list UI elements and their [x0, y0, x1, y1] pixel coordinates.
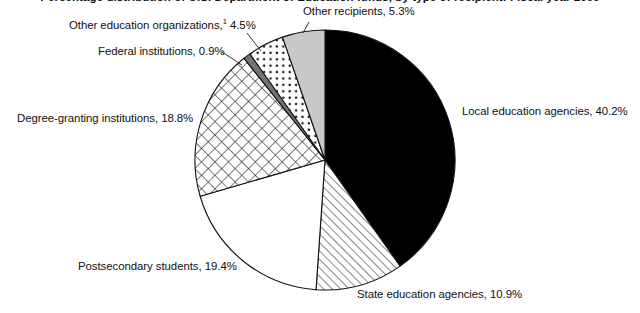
slice-label-degree-granting-institutions: Degree-granting institutions, 18.8% [17, 112, 193, 125]
slice-label-state-education-agencies: State education agencies, 10.9% [357, 288, 522, 301]
slice-label-local-education-agencies: Local education agencies, 40.2% [462, 105, 628, 118]
leader-line-federal-institutions [222, 52, 242, 65]
slice-label-federal-institutions: Federal institutions, 0.9% [98, 45, 225, 58]
leader-line-other-education-organizations [247, 33, 261, 51]
slice-label-other-education-organizations: Other education organizations,1 4.5% [69, 19, 256, 32]
pie-slices-group [195, 30, 455, 290]
slice-label-postsecondary-students: Postsecondary students, 19.4% [78, 260, 237, 273]
pie-chart-figure: Percentage distribution of U.S. Departme… [0, 0, 640, 313]
slice-label-other-education-organizations-value: 4.5% [227, 19, 256, 31]
slice-label-other-recipients: Other recipients, 5.3% [303, 5, 415, 18]
slice-label-other-education-organizations-text: Other education organizations, [69, 19, 223, 31]
